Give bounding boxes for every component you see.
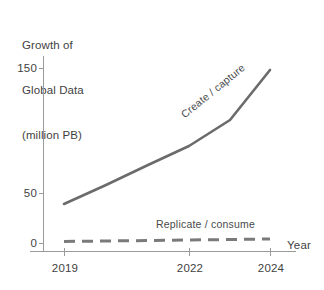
line-chart: Growth of Global Data (million PB) 150 5… — [0, 0, 324, 290]
y-axis-tick-label-50: 50 — [0, 187, 37, 199]
x-axis-tick-label-2022: 2022 — [167, 262, 213, 274]
x-axis-tick-label-2019: 2019 — [42, 262, 88, 274]
series-line-replicate-consume — [64, 239, 270, 242]
y-axis-tick-label-150: 150 — [0, 62, 37, 74]
chart-canvas — [0, 0, 324, 290]
x-axis-title: Year — [287, 239, 311, 251]
series-annotation-replicate-consume: Replicate / consume — [156, 218, 255, 230]
series-line-create-capture — [64, 70, 270, 204]
x-axis-tick-label-2024: 2024 — [248, 262, 294, 274]
y-axis-tick-label-0: 0 — [0, 237, 37, 249]
